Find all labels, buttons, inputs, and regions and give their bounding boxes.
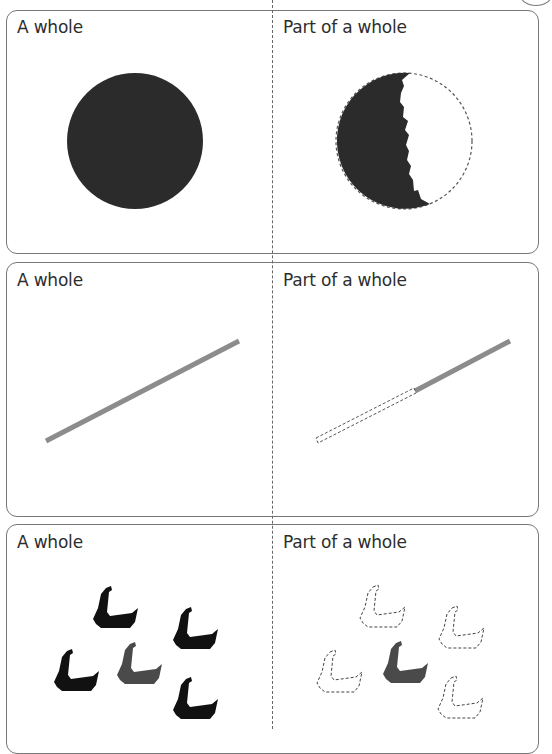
whole-circle <box>67 73 203 209</box>
partial-line <box>316 341 510 443</box>
remaining-line-segment <box>415 341 510 391</box>
duck-group-whole <box>54 586 218 719</box>
missing-line-dashed-outline <box>316 388 416 443</box>
duck-grey <box>117 642 162 684</box>
duck-black-4 <box>173 677 218 719</box>
duck-dashed-1 <box>360 585 405 627</box>
duck-dashed-4 <box>438 676 483 718</box>
remaining-part-fill <box>337 73 430 209</box>
torn-circle <box>336 73 472 209</box>
duck-grey-remaining <box>383 641 428 683</box>
duck-black-1 <box>93 586 138 628</box>
duck-group-part <box>317 585 484 718</box>
duck-black-2 <box>173 607 218 649</box>
duck-dashed-3 <box>317 650 362 692</box>
duck-black-3 <box>54 649 99 691</box>
duck-dashed-2 <box>439 606 484 648</box>
whole-line <box>46 341 239 441</box>
